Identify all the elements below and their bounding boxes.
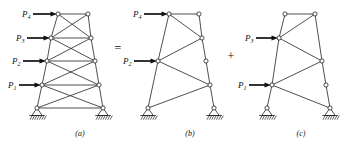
support-hatch-support-left-c — [272, 116, 274, 120]
support-hatch-support-left-c — [269, 116, 271, 120]
support-hatch-support-left-a — [39, 116, 41, 120]
truss-member-R2-R1-c — [322, 61, 326, 85]
support-hatch-support-right-b — [214, 116, 216, 120]
truss-member-R3-L2-a — [47, 38, 91, 61]
truss-member-L3-L1-c — [272, 38, 279, 85]
support-hatch-support-right-b — [212, 116, 214, 120]
support-hatch-support-left-c — [265, 116, 267, 120]
operator-equals: = — [115, 41, 122, 55]
support-hatch-support-right-a — [108, 116, 110, 120]
load-arrowhead-P3-a — [44, 35, 51, 40]
support-hatch-support-left-b — [155, 116, 157, 120]
truss-member-L1-R0-a — [42, 85, 103, 108]
loads-group-a: P4P3P2P1 — [7, 9, 57, 91]
support-hatch-support-right-a — [98, 116, 100, 120]
truss-member-R4-R3-b — [199, 14, 202, 38]
support-hatch-support-right-b — [209, 116, 211, 120]
load-label-subscript: 3 — [250, 38, 254, 44]
truss-member-R3-R2-a — [91, 38, 95, 61]
supports-group-a — [29, 108, 112, 120]
support-hatch-support-left-a — [35, 116, 37, 120]
support-hatch-support-right-b — [207, 116, 209, 120]
truss-member-L1-R2-c — [272, 61, 322, 85]
load-label-P3-c: P3 — [244, 33, 254, 44]
load-label-subscript: 4 — [28, 14, 31, 20]
support-hatch-support-right-c — [337, 116, 339, 120]
support-hatch-support-left-c — [267, 116, 269, 120]
operator-plus: + — [228, 49, 235, 63]
support-hatch-support-left-b — [148, 116, 150, 120]
truss-member-L4-L2-b — [158, 14, 169, 61]
support-hatch-support-left-b — [143, 116, 145, 120]
truss-member-L2-L1-a — [42, 61, 47, 85]
support-hatch-support-right-a — [110, 116, 112, 120]
truss-member-L3-R2-c — [279, 38, 322, 61]
loads-group-b: P4P2 — [122, 9, 168, 67]
support-hatch-support-left-a — [37, 116, 39, 120]
truss-joint-L4-c — [283, 12, 287, 16]
load-arrowhead-P4-a — [51, 11, 58, 16]
truss-joint-R4-a — [86, 12, 90, 16]
truss-joint-R1-c — [324, 83, 328, 87]
load-label-subscript: 2 — [18, 61, 21, 67]
support-hatch-support-right-c — [325, 116, 327, 120]
captions-group: (a)(b)(c) — [75, 129, 305, 138]
truss-joint-L0-b — [146, 106, 150, 110]
load-label-subscript: 1 — [244, 85, 247, 91]
support-hatch-support-right-c — [323, 116, 325, 120]
panel-caption-a: (a) — [75, 129, 85, 138]
support-hatch-support-right-a — [101, 116, 103, 120]
load-arrowhead-P1-c — [265, 82, 272, 87]
truss-member-R1-R0-a — [99, 85, 103, 108]
truss-panel-b: P4P2 — [122, 9, 223, 120]
support-hatch-support-right-c — [335, 116, 337, 120]
support-hatch-support-right-c — [328, 116, 330, 120]
truss-member-L1-R0-c — [272, 85, 330, 108]
truss-joint-R4-b — [197, 12, 201, 16]
support-hatch-support-right-c — [330, 116, 332, 120]
truss-joint-R1-b — [208, 83, 212, 87]
truss-member-R1-L0-a — [37, 85, 99, 108]
support-hatch-support-right-b — [221, 116, 223, 120]
load-arrowhead-P2-a — [40, 58, 47, 63]
truss-member-L0-R1-b — [148, 85, 210, 108]
support-hatch-support-left-c — [262, 116, 264, 120]
truss-joint-L0-c — [265, 106, 269, 110]
truss-member-L2-R1-b — [158, 61, 210, 85]
truss-joint-R3-b — [200, 36, 204, 40]
support-hatch-support-left-b — [141, 116, 143, 120]
support-hatch-support-left-b — [153, 116, 155, 120]
load-label-subscript: 2 — [129, 61, 132, 67]
support-hatch-support-right-a — [96, 116, 98, 120]
load-label-subscript: 1 — [14, 85, 17, 91]
truss-member-R2-L1-a — [42, 61, 95, 85]
truss-member-L2-R1-a — [47, 61, 99, 85]
panel-caption-b: (b) — [185, 129, 195, 138]
support-hatch-support-left-a — [42, 116, 44, 120]
truss-member-L3-L2-a — [47, 38, 51, 61]
load-label-P1-c: P1 — [237, 80, 247, 91]
load-arrowhead-P1-a — [35, 82, 42, 87]
truss-joint-R2-c — [320, 59, 324, 63]
truss-member-L4-R3-a — [58, 14, 91, 38]
support-hatch-support-left-b — [150, 116, 152, 120]
truss-member-L2-L0-b — [148, 61, 158, 108]
truss-member-R4-R3-a — [88, 14, 91, 38]
truss-member-L1-L0-a — [37, 85, 42, 108]
supports-group-c — [259, 108, 339, 120]
truss-member-R4-R2-c — [315, 14, 322, 61]
truss-member-R2-R1-b — [206, 61, 210, 85]
support-hatch-support-left-a — [32, 116, 34, 120]
truss-joint-R0-b — [212, 106, 216, 110]
truss-member-R2-R1-a — [95, 61, 99, 85]
truss-member-L4-R3-b — [169, 14, 202, 38]
load-label-P2-a: P2 — [11, 56, 21, 67]
loads-group-c: P3P1 — [237, 33, 278, 91]
truss-member-R1-R0-c — [326, 85, 330, 108]
load-arrowhead-P3-c — [272, 35, 279, 40]
truss-joint-R1-a — [97, 83, 101, 87]
truss-joint-R2-b — [204, 59, 208, 63]
support-hatch-support-right-b — [219, 116, 221, 120]
support-hatch-support-left-a — [30, 116, 32, 120]
truss-member-R3-R2-b — [202, 38, 206, 61]
